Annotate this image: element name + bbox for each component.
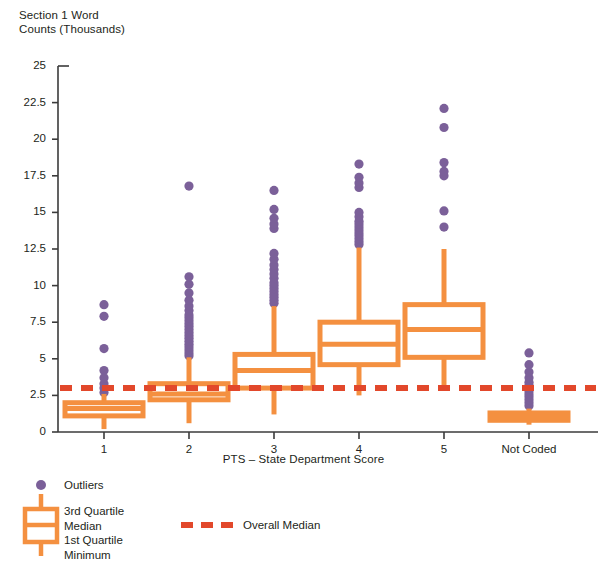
x-tick-label: 1 bbox=[101, 443, 107, 455]
y-tick-label: 22.5 bbox=[6, 96, 46, 108]
outlier-point bbox=[99, 300, 108, 309]
axes bbox=[58, 66, 598, 432]
x-tick-label: 5 bbox=[441, 443, 447, 455]
outlier-point bbox=[524, 348, 533, 357]
outlier-point bbox=[439, 167, 448, 176]
outlier-point bbox=[354, 173, 363, 182]
outlier-point bbox=[269, 205, 278, 214]
outlier-point bbox=[439, 222, 448, 231]
outlier-point bbox=[354, 208, 363, 217]
box-plot-1 bbox=[65, 394, 143, 429]
legend-box-labels: 3rd Quartile Median 1st Quartile Minimum bbox=[64, 504, 124, 562]
y-tick-label: 12.5 bbox=[6, 242, 46, 254]
outlier-layer bbox=[99, 104, 533, 410]
x-tick-label: 3 bbox=[271, 443, 277, 455]
y-tick-label: 17.5 bbox=[6, 169, 46, 181]
legend-outliers-label: Outliers bbox=[64, 478, 104, 493]
box-plot-3 bbox=[235, 306, 313, 414]
y-tick-label: 10 bbox=[6, 279, 46, 291]
x-tick-label: 2 bbox=[186, 443, 192, 455]
y-tick-label: 25 bbox=[6, 59, 46, 71]
legend-outlier-icon bbox=[36, 480, 46, 490]
outlier-point bbox=[439, 104, 448, 113]
y-axis-title: Section 1 Word Counts (Thousands) bbox=[19, 8, 125, 36]
outlier-point bbox=[269, 186, 278, 195]
y-tick-label: 2.5 bbox=[6, 388, 46, 400]
outlier-point bbox=[99, 312, 108, 321]
outlier-point bbox=[524, 360, 533, 369]
legend-overall-median-label: Overall Median bbox=[243, 518, 320, 533]
outlier-point bbox=[99, 344, 108, 353]
box-plot-not-coded bbox=[490, 409, 568, 425]
box-plot-4 bbox=[320, 248, 398, 396]
outlier-point bbox=[269, 214, 278, 223]
x-tick-label: 4 bbox=[356, 443, 362, 455]
legend bbox=[25, 480, 233, 556]
y-tick-label: 0 bbox=[6, 425, 46, 437]
y-tick-label: 15 bbox=[6, 205, 46, 217]
outlier-point bbox=[439, 206, 448, 215]
outlier-point bbox=[439, 123, 448, 132]
outlier-point bbox=[99, 366, 108, 375]
outlier-point bbox=[439, 158, 448, 167]
outlier-point bbox=[184, 272, 193, 281]
y-tick-label: 7.5 bbox=[6, 315, 46, 327]
outlier-point bbox=[269, 249, 278, 258]
y-tick-label: 5 bbox=[6, 352, 46, 364]
box-plot-chart: Section 1 Word Counts (Thousands) PTS – … bbox=[0, 0, 607, 566]
outlier-point bbox=[354, 159, 363, 168]
box-plot-5 bbox=[405, 249, 483, 390]
x-tick-label: Not Coded bbox=[502, 443, 557, 455]
outlier-point bbox=[184, 181, 193, 190]
y-tick-label: 20 bbox=[6, 132, 46, 144]
outlier-point bbox=[184, 288, 193, 297]
